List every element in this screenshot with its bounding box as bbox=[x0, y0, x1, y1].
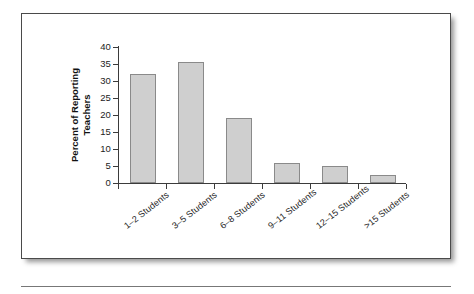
y-axis-tick-label: 0 bbox=[77, 178, 111, 188]
bar bbox=[370, 175, 396, 184]
bar bbox=[130, 74, 156, 183]
y-axis-tick-label: 25 bbox=[77, 93, 111, 103]
x-axis-tick-label: 3–5 Students bbox=[170, 190, 219, 231]
bar bbox=[274, 163, 300, 183]
x-axis-tick bbox=[166, 184, 167, 189]
y-axis-tick-label: 30 bbox=[77, 76, 111, 86]
x-axis-tick-label: 9–11 Students bbox=[266, 187, 318, 231]
figure-frame: Percent of Reporting Teachers 0510152025… bbox=[21, 13, 451, 259]
bar bbox=[226, 118, 252, 183]
y-axis-tick bbox=[113, 98, 118, 99]
x-axis-tick bbox=[406, 184, 407, 189]
bar bbox=[178, 62, 204, 183]
x-axis-tick-label: >15 Students bbox=[362, 189, 411, 230]
y-axis-tick bbox=[113, 64, 118, 65]
x-axis-tick bbox=[118, 184, 119, 189]
x-axis-tick bbox=[262, 184, 263, 189]
y-axis-tick bbox=[113, 115, 118, 116]
y-axis-tick-label: 35 bbox=[77, 59, 111, 69]
y-axis-tick bbox=[113, 166, 118, 167]
y-axis-tick-label: 10 bbox=[77, 144, 111, 154]
y-axis-tick bbox=[113, 149, 118, 150]
bar bbox=[322, 166, 348, 183]
y-axis-tick bbox=[113, 132, 118, 133]
plot-area bbox=[119, 47, 405, 183]
y-axis-tick bbox=[113, 47, 118, 48]
bottom-divider bbox=[21, 286, 451, 287]
y-axis-tick-label: 15 bbox=[77, 127, 111, 137]
x-axis-tick-label: 6–8 Students bbox=[218, 190, 267, 231]
x-axis-tick-label: 1–2 Students bbox=[122, 190, 171, 231]
y-axis-tick bbox=[113, 81, 118, 82]
x-axis-tick bbox=[214, 184, 215, 189]
y-axis-tick-label: 5 bbox=[77, 161, 111, 171]
y-axis-tick-label: 40 bbox=[77, 42, 111, 52]
y-axis-tick-label: 20 bbox=[77, 110, 111, 120]
figure-root: Percent of Reporting Teachers 0510152025… bbox=[0, 0, 474, 294]
